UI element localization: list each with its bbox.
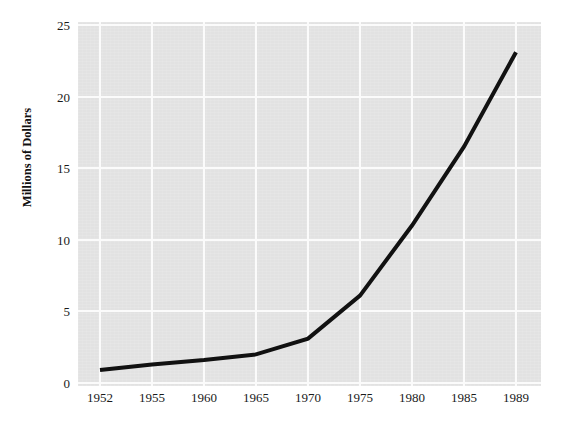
- x-axis-tick-label: 1985: [434, 391, 494, 404]
- x-axis-tick-label: 1980: [382, 391, 442, 404]
- y-axis-tick-label: 0: [10, 377, 70, 390]
- plot-area: [78, 22, 541, 386]
- y-axis-tick-label: 25: [10, 19, 70, 32]
- data-series-line: [78, 22, 541, 386]
- x-axis-tick-label: 1952: [70, 391, 130, 404]
- line-chart-figure: 2520151050 Millions of Dollars 195219551…: [0, 0, 567, 424]
- x-axis-tick-label: 1989: [486, 391, 546, 404]
- y-axis-title: Millions of Dollars: [20, 93, 35, 223]
- x-axis-tick-label: 1965: [226, 391, 286, 404]
- y-axis-tick-labels: 2520151050: [0, 0, 70, 424]
- y-axis-tick-label: 5: [10, 305, 70, 318]
- x-axis-tick-label: 1975: [330, 391, 390, 404]
- y-axis-tick-label: 10: [10, 234, 70, 247]
- x-axis-tick-label: 1970: [278, 391, 338, 404]
- x-axis-tick-label: 1960: [174, 391, 234, 404]
- x-axis-tick-label: 1955: [122, 391, 182, 404]
